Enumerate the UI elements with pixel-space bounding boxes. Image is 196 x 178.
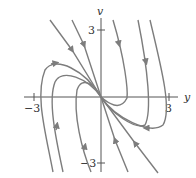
trajectory-bottom-2: [101, 97, 128, 172]
arrow-right-mid: [145, 58, 146, 62]
y-tick-label-3: 3: [88, 24, 95, 37]
x-axis-label: y: [183, 91, 191, 104]
arrow-right-inner: [118, 40, 119, 44]
x-tick-label-neg3: −3: [24, 102, 40, 115]
trajectory-right-outer: [101, 20, 166, 128]
trajectory-right-inner: [101, 20, 127, 105]
phase-portrait: v y −3 3 3 −3: [0, 0, 196, 178]
y-axis-label: v: [97, 5, 104, 18]
arrow-left-top: [51, 63, 56, 64]
trajectory-left-outer: [41, 64, 101, 172]
arrow-left-outer: [56, 125, 57, 130]
arrow-left-inner: [84, 146, 85, 150]
trajectory-top-2: [72, 20, 101, 97]
